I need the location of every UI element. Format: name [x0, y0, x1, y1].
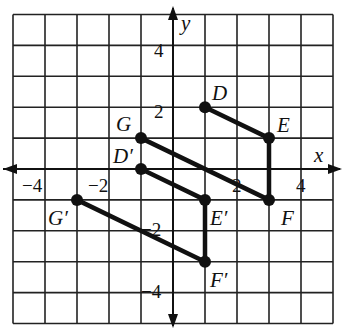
x-tick-neg2: −2	[88, 175, 108, 196]
label-G-prime: G′	[48, 206, 68, 230]
label-F: F	[280, 206, 294, 230]
y-axis-down-arrow-icon	[168, 314, 178, 328]
vertex-point	[263, 132, 275, 144]
y-tick-4: 4	[154, 40, 164, 61]
tick-labels: −4 −2 2 4 4 2 −2 −4	[22, 40, 306, 302]
label-F-prime: F′	[209, 268, 228, 292]
label-D-prime: D′	[112, 144, 133, 168]
label-D: D	[211, 81, 227, 105]
coordinate-plane: x y −4 −2 2 4 4 2 −2 −4 D E F G D′ E′ F′	[0, 0, 349, 331]
x-tick-4: 4	[296, 175, 306, 196]
vertex-point	[199, 101, 211, 113]
vertex-point	[199, 256, 211, 268]
y-axis-label: y	[179, 11, 191, 35]
vertex-point	[135, 163, 147, 175]
x-axis-left-arrow-icon	[3, 164, 17, 174]
label-G: G	[116, 112, 131, 136]
y-tick-neg4: −4	[141, 281, 162, 302]
x-tick-neg4: −4	[22, 175, 43, 196]
vertex-point	[199, 194, 211, 206]
label-E-prime: E′	[209, 206, 228, 230]
vertex-labels: D E F G D′ E′ F′ G′	[48, 81, 294, 292]
axes: x y	[3, 6, 342, 328]
x-axis-right-arrow-icon	[328, 164, 342, 174]
vertex-point	[135, 132, 147, 144]
y-axis-up-arrow-icon	[168, 6, 178, 20]
vertex-point	[263, 194, 275, 206]
y-tick-2: 2	[154, 101, 164, 122]
label-E: E	[276, 113, 290, 137]
x-axis-label: x	[313, 143, 324, 167]
vertex-point	[71, 194, 83, 206]
